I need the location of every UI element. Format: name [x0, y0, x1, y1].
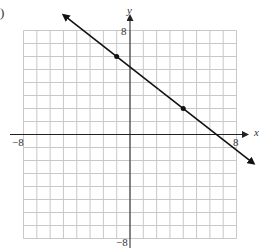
x-min-tick-label: −8 [12, 137, 24, 148]
axes [10, 16, 247, 248]
y-max-tick-label: 8 [121, 26, 127, 37]
problem-marker: ) [0, 6, 4, 19]
x-max-tick-label: 8 [233, 137, 239, 148]
y-axis-label: y [127, 5, 132, 16]
x-axis-label: x [254, 127, 259, 138]
data-point [114, 54, 119, 59]
y-min-tick-label: −8 [116, 237, 128, 248]
data-point [181, 106, 186, 111]
coordinate-plane [0, 0, 263, 250]
plotted-line [63, 15, 253, 164]
